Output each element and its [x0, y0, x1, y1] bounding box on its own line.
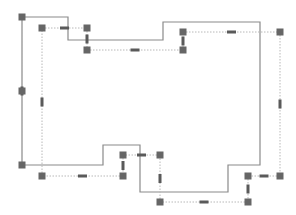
corner-handle[interactable]: [157, 152, 164, 159]
corner-handle[interactable]: [180, 47, 187, 54]
diagram-canvas[interactable]: [0, 0, 296, 215]
corner-handle[interactable]: [19, 14, 26, 21]
corner-handle[interactable]: [84, 25, 91, 32]
corner-handles[interactable]: [19, 14, 284, 206]
corner-handle[interactable]: [39, 25, 46, 32]
corner-handle[interactable]: [19, 88, 26, 95]
midpoint-handle[interactable]: [122, 161, 125, 170]
midpoint-handle[interactable]: [227, 31, 236, 34]
midpoint-handle[interactable]: [60, 27, 69, 30]
corner-handle[interactable]: [245, 199, 252, 206]
corner-handle[interactable]: [157, 199, 164, 206]
midpoint-handle[interactable]: [78, 175, 87, 178]
midpoint-handle[interactable]: [86, 35, 89, 44]
corner-handle[interactable]: [120, 152, 127, 159]
corner-handle[interactable]: [39, 173, 46, 180]
corner-handle[interactable]: [120, 173, 127, 180]
midpoint-handle[interactable]: [247, 185, 250, 194]
corner-handle[interactable]: [19, 162, 26, 169]
midpoint-handle[interactable]: [41, 98, 44, 107]
guide-lines: [22, 17, 280, 202]
outline-path: [22, 17, 260, 192]
midpoint-handle[interactable]: [131, 49, 140, 52]
midpoint-handle[interactable]: [260, 175, 269, 178]
corner-handle[interactable]: [245, 173, 252, 180]
midpoint-handle[interactable]: [137, 154, 146, 157]
corner-handle[interactable]: [277, 173, 284, 180]
midpoint-handle[interactable]: [200, 201, 209, 204]
corner-handle[interactable]: [84, 47, 91, 54]
midpoint-handle[interactable]: [159, 174, 162, 183]
midpoint-handle[interactable]: [182, 37, 185, 46]
corner-handle[interactable]: [180, 29, 187, 36]
shape-outline: [22, 17, 260, 192]
midpoint-handle[interactable]: [279, 100, 282, 109]
midpoint-handles[interactable]: [21, 27, 282, 204]
corner-handle[interactable]: [277, 29, 284, 36]
